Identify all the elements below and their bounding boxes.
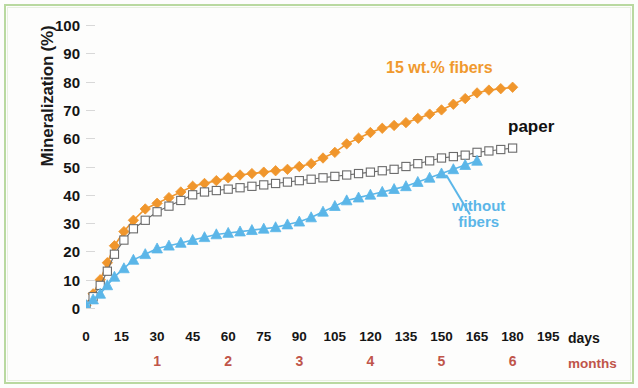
data-point (390, 165, 398, 173)
data-point (236, 184, 244, 192)
y-tick-label: 70 (46, 103, 80, 118)
x-tick-label: 150 (422, 330, 462, 344)
data-point (248, 182, 256, 190)
series-15-wt-fibers (86, 82, 518, 308)
data-point (507, 82, 517, 92)
month-axis-tick-labels: 123456 (0, 354, 638, 372)
y-tick-label: 20 (46, 244, 80, 259)
data-point (294, 161, 304, 171)
data-point (365, 127, 375, 137)
data-point (247, 168, 257, 178)
x-tick-label: 195 (528, 330, 568, 344)
data-point (343, 171, 351, 179)
data-point (461, 151, 469, 159)
y-tick-label: 0 (46, 301, 80, 316)
y-tick-label: 100 (46, 18, 80, 33)
data-point (153, 208, 161, 216)
data-point (472, 88, 482, 98)
month-tick-label: 4 (350, 354, 390, 368)
data-point (354, 169, 362, 177)
y-axis-tick-labels: 0102030405060708090100 (40, 25, 80, 308)
y-tick-label: 90 (46, 46, 80, 61)
data-point (212, 186, 220, 194)
data-point (318, 153, 328, 163)
x-tick-label: 105 (315, 330, 355, 344)
x-tick-label: 30 (137, 330, 177, 344)
data-point (270, 166, 280, 176)
month-axis-unit-label: months (568, 356, 638, 371)
data-point (413, 113, 423, 123)
month-tick-label: 5 (422, 354, 462, 368)
data-point (496, 83, 506, 93)
data-point (295, 177, 303, 185)
data-point (485, 147, 493, 155)
data-point (306, 158, 316, 168)
data-point (318, 206, 329, 216)
data-point (460, 93, 470, 103)
x-tick-label: 120 (350, 330, 390, 344)
x-tick-label: 180 (493, 330, 533, 344)
x-axis-tick-labels: 0153045607590105120135150165180195 (0, 330, 638, 348)
data-point (235, 170, 245, 180)
data-point (200, 188, 208, 196)
data-point (402, 162, 410, 170)
data-point (414, 160, 422, 168)
data-point (426, 157, 434, 165)
data-point (165, 202, 173, 210)
data-point (448, 99, 458, 109)
data-point (342, 139, 352, 149)
data-point (110, 250, 118, 258)
data-point (129, 225, 137, 233)
y-tick-label: 80 (46, 75, 80, 90)
data-point (224, 185, 232, 193)
data-point (306, 212, 317, 222)
x-tick-label: 15 (102, 330, 142, 344)
data-point (509, 144, 517, 152)
x-tick-label: 165 (457, 330, 497, 344)
data-point (307, 175, 315, 183)
y-tick-label: 30 (46, 216, 80, 231)
data-point (497, 145, 505, 153)
data-point (283, 178, 291, 186)
data-point (141, 216, 149, 224)
month-tick-label: 1 (137, 354, 177, 368)
data-point (437, 154, 445, 162)
data-point (389, 120, 399, 130)
data-point (211, 175, 221, 185)
data-point (189, 191, 197, 199)
data-point (366, 168, 374, 176)
data-point (140, 249, 151, 259)
series-label-paper: paper (508, 118, 554, 136)
data-point (353, 133, 363, 143)
data-point (331, 172, 339, 180)
data-point (449, 152, 457, 160)
x-tick-label: 90 (279, 330, 319, 344)
x-tick-label: 0 (66, 330, 106, 344)
month-tick-label: 2 (208, 354, 248, 368)
data-point (128, 254, 139, 264)
data-point (259, 167, 269, 177)
data-point (164, 192, 174, 202)
data-point (120, 236, 128, 244)
data-point (177, 196, 185, 204)
y-tick-label: 10 (46, 273, 80, 288)
data-point (187, 181, 197, 191)
data-point (330, 201, 341, 211)
data-point (199, 178, 209, 188)
data-point (103, 267, 111, 275)
x-axis-unit-label: days (568, 330, 624, 346)
data-point (260, 181, 268, 189)
data-point (378, 167, 386, 175)
data-point (272, 179, 280, 187)
data-point (330, 147, 340, 157)
x-tick-label: 75 (244, 330, 284, 344)
x-tick-label: 45 (173, 330, 213, 344)
data-point (223, 173, 233, 183)
y-tick-label: 40 (46, 188, 80, 203)
data-point (424, 109, 434, 119)
series-label-fibers: 15 wt.% fibers (386, 60, 493, 77)
y-gridline (86, 308, 95, 309)
x-tick-label: 60 (208, 330, 248, 344)
data-point (377, 123, 387, 133)
data-point (282, 164, 292, 174)
